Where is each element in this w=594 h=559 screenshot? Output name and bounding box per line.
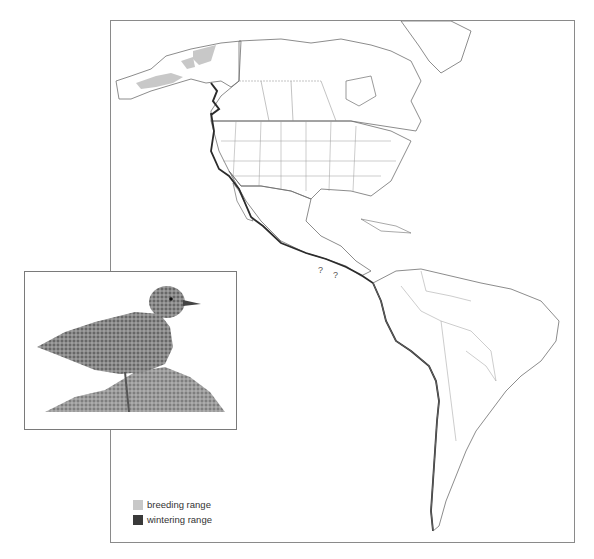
bird-head: [149, 286, 185, 318]
mexico-landmass: [229, 171, 371, 276]
bird-beak: [183, 300, 201, 306]
hudson-bay: [346, 76, 376, 106]
rock: [45, 367, 225, 412]
wintering-swatch: [133, 515, 143, 525]
alaska-landmass: [116, 41, 241, 99]
legend-label: wintering range: [147, 514, 212, 525]
canada-landmass: [211, 39, 421, 131]
uncertain-marker: ?: [333, 270, 338, 280]
map-legend: breeding range wintering range: [133, 497, 212, 527]
us-state-borders: [221, 121, 396, 191]
greenland: [401, 21, 471, 73]
breeding-range-alaska-west: [136, 73, 183, 89]
cuba: [361, 219, 411, 233]
cropped-header-text: [22, 0, 172, 2]
legend-label: breeding range: [147, 499, 211, 510]
bird-illustration-inset: [24, 271, 237, 430]
south-america-borders: [401, 271, 496, 441]
wintering-range-northwest: [211, 83, 219, 115]
bird-eye: [169, 297, 173, 301]
breeding-swatch: [133, 500, 143, 510]
legend-item-wintering: wintering range: [133, 512, 212, 527]
south-america-landmass: [373, 269, 559, 531]
legend-item-breeding: breeding range: [133, 497, 212, 512]
wintering-range-pacific-coast: [211, 113, 439, 531]
breeding-range-alaska-interior: [181, 57, 195, 69]
uncertain-marker: ?: [318, 265, 323, 275]
bird-body: [37, 312, 173, 374]
bird-illustration: [25, 272, 236, 429]
usa-landmass: [211, 121, 411, 199]
